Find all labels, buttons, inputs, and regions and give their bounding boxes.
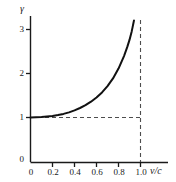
x-axis-title: v/c — [150, 166, 162, 176]
lorentz-factor-chart: γ v/c 3 2 1 0 0 0.2 0.4 0.6 0.8 1.0 — [0, 0, 176, 182]
lorentz-curve — [31, 20, 135, 117]
x-tick-label-1-0: 1.0 — [131, 168, 151, 177]
y-axis-title: γ — [20, 4, 24, 14]
y-tick-label-1: 1 — [12, 113, 24, 122]
plot-canvas — [0, 0, 176, 182]
y-tick-label-0: 0 — [12, 155, 24, 164]
y-tick-label-3: 3 — [12, 25, 24, 34]
x-tick-label-0: 0 — [21, 168, 41, 177]
x-tick-label-0-4: 0.4 — [65, 168, 85, 177]
x-tick-label-0-6: 0.6 — [87, 168, 107, 177]
x-tick-label-0-2: 0.2 — [43, 168, 63, 177]
y-tick-label-2: 2 — [12, 69, 24, 78]
x-tick-label-0-8: 0.8 — [109, 168, 129, 177]
